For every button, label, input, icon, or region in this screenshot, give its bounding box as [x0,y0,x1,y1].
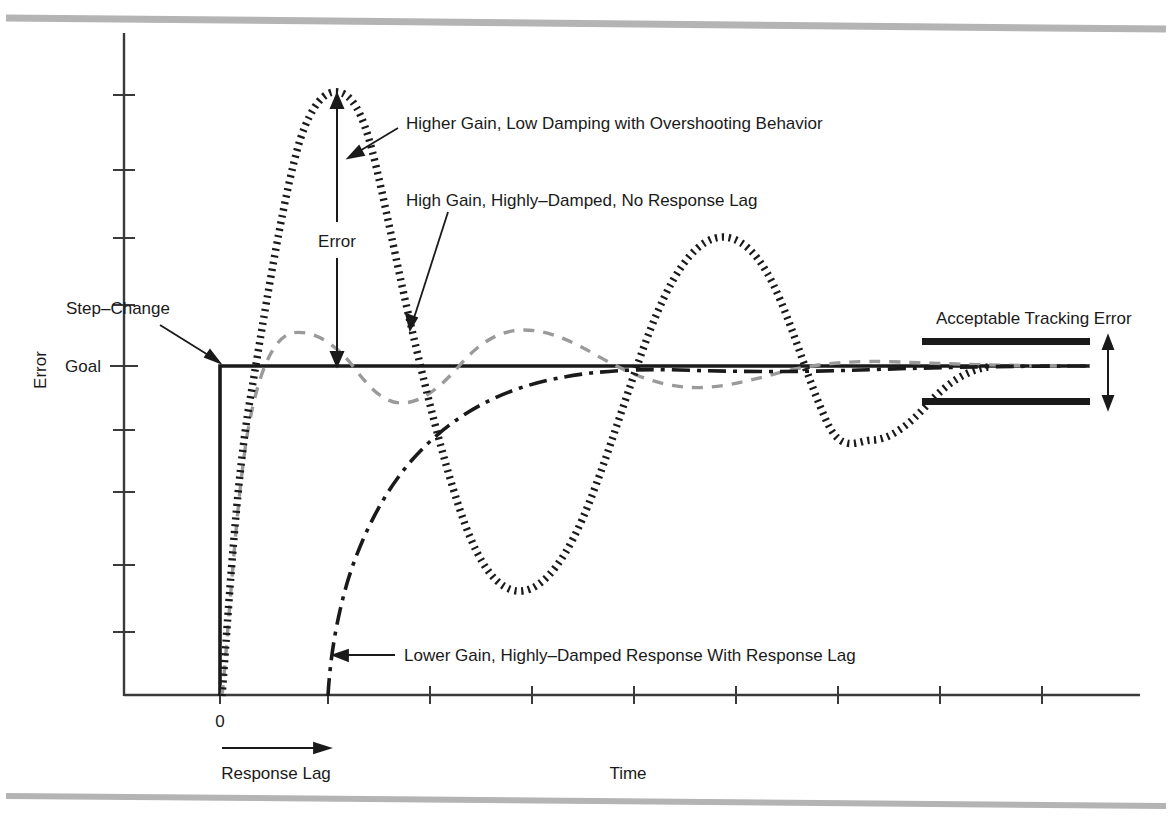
annotation-lower-gain: Lower Gain, Highly–Damped Response With … [404,646,856,665]
leader-high-gain [414,212,448,318]
annotation-response-lag: Response Lag [221,764,331,783]
series-high-gain-damped [222,330,1090,696]
response-lag-arrow [222,743,330,753]
annotation-step-change: Step–Change [66,299,170,318]
annotation-leaders [160,128,448,661]
error-span-arrow [331,94,343,366]
annotation-higher-gain: Higher Gain, Low Damping with Overshooti… [406,114,823,133]
page-rule-bottom [6,793,1166,809]
acceptable-band-upper [922,338,1090,345]
acceptable-band-lower [922,398,1090,405]
leader-step-change [160,325,213,358]
tracking-error-span-arrow [1103,336,1113,409]
page-rule-top [6,14,1166,32]
annotation-acceptable-tracking-error: Acceptable Tracking Error [936,309,1132,328]
x-axis-label: Time [609,764,646,783]
leader-higher-gain [358,128,398,152]
annotation-high-gain: High Gain, Highly–Damped, No Response La… [406,191,758,210]
annotation-error: Error [318,232,356,251]
figure-page: Error Goal 0 Time Step–Change Error High… [0,0,1172,817]
goal-tick-label: Goal [65,357,101,376]
y-axis-label: Error [31,351,50,389]
step-response-figure: Error Goal 0 Time Step–Change Error High… [0,0,1172,817]
origin-tick-label: 0 [215,712,224,731]
acceptable-tracking-error-bands [922,338,1090,405]
